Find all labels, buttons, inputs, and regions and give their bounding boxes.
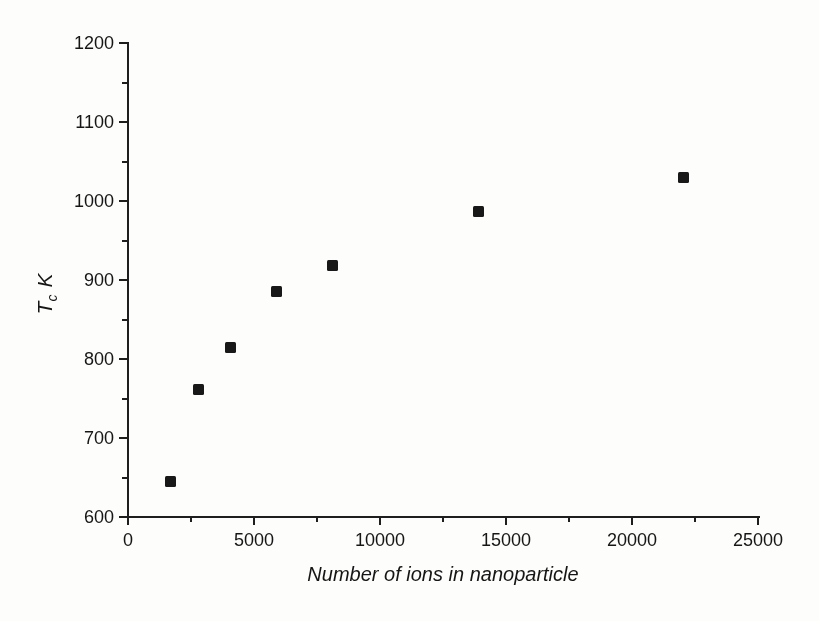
x-tick-label: 10000 xyxy=(340,530,420,550)
y-minor-tick xyxy=(122,398,127,400)
x-major-tick xyxy=(631,518,633,525)
y-minor-tick xyxy=(122,161,127,163)
y-tick-label: 900 xyxy=(62,270,114,290)
y-axis-title: TcK xyxy=(33,274,60,315)
x-minor-tick xyxy=(316,518,318,522)
x-major-tick xyxy=(379,518,381,525)
x-tick-label: 5000 xyxy=(214,530,294,550)
y-minor-tick xyxy=(122,477,127,479)
tc-vs-ions-scatter-figure: TcK Number of ions in nanoparticle 05000… xyxy=(0,0,819,621)
y-tick-label: 1200 xyxy=(62,33,114,53)
y-major-tick xyxy=(119,121,127,123)
x-minor-tick xyxy=(694,518,696,522)
data-point xyxy=(225,342,236,353)
y-axis-title-subscript: c xyxy=(44,295,60,302)
y-tick-label: 1100 xyxy=(62,112,114,132)
data-point xyxy=(193,384,204,395)
y-major-tick xyxy=(119,200,127,202)
data-point xyxy=(678,172,689,183)
x-major-tick xyxy=(253,518,255,525)
y-tick-label: 1000 xyxy=(62,191,114,211)
y-major-tick xyxy=(119,358,127,360)
plot-area: TcK Number of ions in nanoparticle 05000… xyxy=(0,0,819,621)
y-major-tick xyxy=(119,437,127,439)
y-major-tick xyxy=(119,42,127,44)
data-point xyxy=(327,260,338,271)
y-axis-line xyxy=(127,42,129,518)
data-point xyxy=(165,476,176,487)
y-tick-label: 700 xyxy=(62,428,114,448)
y-tick-label: 600 xyxy=(62,507,114,527)
x-tick-label: 15000 xyxy=(466,530,546,550)
x-minor-tick xyxy=(568,518,570,522)
x-tick-label: 0 xyxy=(88,530,168,550)
x-major-tick xyxy=(505,518,507,525)
x-axis-title: Number of ions in nanoparticle xyxy=(243,563,643,586)
y-minor-tick xyxy=(122,82,127,84)
x-minor-tick xyxy=(190,518,192,522)
data-point xyxy=(473,206,484,217)
x-minor-tick xyxy=(442,518,444,522)
data-point xyxy=(271,286,282,297)
x-major-tick xyxy=(127,518,129,525)
y-axis-title-unit: K xyxy=(33,274,56,288)
y-axis-title-symbol: T xyxy=(33,302,56,315)
x-tick-label: 20000 xyxy=(592,530,672,550)
y-major-tick xyxy=(119,279,127,281)
x-major-tick xyxy=(757,518,759,525)
y-tick-label: 800 xyxy=(62,349,114,369)
y-minor-tick xyxy=(122,240,127,242)
y-minor-tick xyxy=(122,319,127,321)
x-tick-label: 25000 xyxy=(718,530,798,550)
y-major-tick xyxy=(119,516,127,518)
